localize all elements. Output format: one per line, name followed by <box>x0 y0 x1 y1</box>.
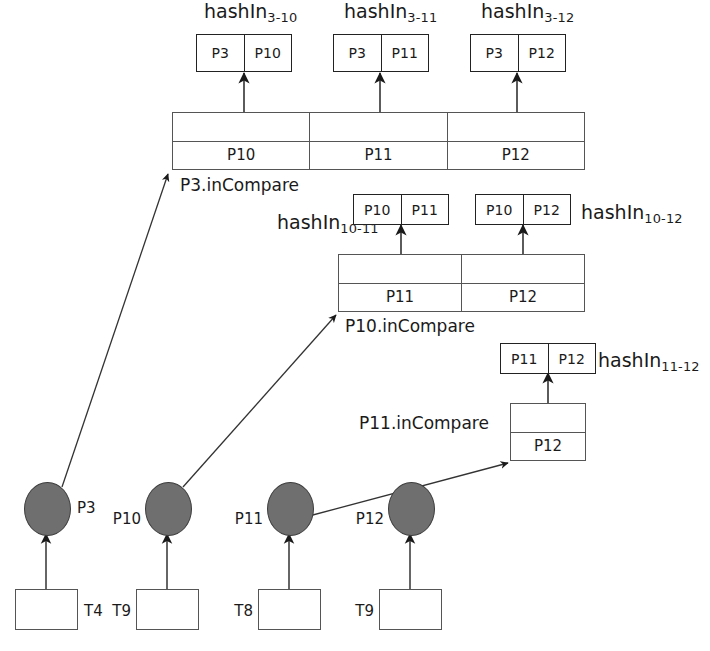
hashin-3-12-label-main: hashIn <box>481 0 544 22</box>
peer-label-p11: P11 <box>235 512 263 527</box>
p3-incompare-top-cell-0 <box>173 113 309 141</box>
transaction-box-t8[interactable] <box>258 589 321 630</box>
hashin-3-12-box[interactable]: P3 P12 <box>470 34 566 72</box>
hashin-3-11-label-main: hashIn <box>344 0 407 22</box>
hashin-3-10-cell-0: P3 <box>197 35 244 71</box>
transaction-label-t4: T4 <box>84 604 103 619</box>
p3-incompare-label: P3.inCompare <box>180 177 299 194</box>
hashin-10-12-cell-1: P12 <box>523 195 571 224</box>
p3-incompare-row-bottom: P10 P11 P12 <box>173 141 584 170</box>
hashin-3-10-cell-1: P10 <box>244 35 292 71</box>
hashin-3-12-label: hashIn3-12 <box>481 2 574 25</box>
transaction-box-t9b[interactable] <box>379 589 442 630</box>
hashin-3-11-cell-0: P3 <box>334 35 381 71</box>
p11-incompare-row-top <box>511 404 585 432</box>
hashin-10-11-cell-0: P10 <box>354 195 401 224</box>
arrow-p10-to-p10table <box>183 315 336 487</box>
peer-label-p10: P10 <box>113 512 141 527</box>
hashin-3-10-label-sub: 3-10 <box>267 10 297 25</box>
hashin-3-10-box[interactable]: P3 P10 <box>196 34 292 72</box>
hashin-10-12-label-sub: 10-12 <box>644 211 683 226</box>
peer-node-p11[interactable] <box>267 482 314 536</box>
peer-label-p12: P12 <box>356 512 384 527</box>
hashin-10-11-box[interactable]: P10 P11 <box>353 194 449 225</box>
peer-node-p3[interactable] <box>24 482 71 536</box>
p3-incompare-top-cell-2 <box>447 113 584 141</box>
transaction-label-t9b: T9 <box>355 604 374 619</box>
hashin-11-12-label: hashIn11-12 <box>598 351 700 374</box>
p3-incompare-bottom-cell-1: P11 <box>309 142 446 170</box>
transaction-label-t9a: T9 <box>112 604 131 619</box>
hashin-10-12-cell-0: P10 <box>476 195 523 224</box>
hashin-3-11-box[interactable]: P3 P11 <box>333 34 429 72</box>
hashin-3-11-label-sub: 3-11 <box>407 10 437 25</box>
p10-incompare-bottom-cell-0: P11 <box>339 284 461 312</box>
p10-incompare-row-bottom: P11 P12 <box>339 283 584 312</box>
hashin-11-12-cell-1: P12 <box>548 344 596 373</box>
p11-incompare-label: P11.inCompare <box>359 415 489 432</box>
p10-incompare-label: P10.inCompare <box>345 318 475 335</box>
p11-incompare-top-cell-0 <box>511 404 585 432</box>
hashin-11-12-label-main: hashIn <box>598 349 661 371</box>
p3-incompare-table[interactable]: P10 P11 P12 <box>172 112 585 170</box>
p11-incompare-table[interactable]: P12 <box>510 403 586 461</box>
hashin-3-12-cell-1: P12 <box>518 35 566 71</box>
hashin-3-12-cell-0: P3 <box>471 35 518 71</box>
hashin-11-12-label-sub: 11-12 <box>661 359 700 374</box>
arrow-p3-to-p3table <box>62 174 168 487</box>
p10-incompare-top-cell-1 <box>461 255 584 283</box>
diagram-canvas: hashIn3-10 hashIn3-11 hashIn3-12 P3 P10 … <box>0 0 710 651</box>
hashin-3-10-label: hashIn3-10 <box>204 2 297 25</box>
hashin-3-11-cell-1: P11 <box>381 35 429 71</box>
p11-incompare-row-bottom: P12 <box>511 432 585 461</box>
hashin-11-12-cell-0: P11 <box>501 344 548 373</box>
peer-node-p12[interactable] <box>388 482 435 536</box>
hashin-3-10-label-main: hashIn <box>204 0 267 22</box>
hashin-10-12-label: hashIn10-12 <box>581 203 683 226</box>
p3-incompare-bottom-cell-0: P10 <box>173 142 309 170</box>
p11-incompare-bottom-cell-0: P12 <box>511 433 585 461</box>
p10-incompare-row-top <box>339 255 584 283</box>
hashin-10-11-cell-1: P11 <box>401 195 449 224</box>
transaction-box-t4[interactable] <box>15 589 78 630</box>
p10-incompare-bottom-cell-1: P12 <box>461 284 584 312</box>
hashin-10-12-label-main: hashIn <box>581 201 644 223</box>
p3-incompare-row-top <box>173 113 584 141</box>
hashin-3-11-label: hashIn3-11 <box>344 2 437 25</box>
peer-node-p10[interactable] <box>145 482 192 536</box>
hashin-3-12-label-sub: 3-12 <box>544 10 574 25</box>
peer-label-p3: P3 <box>77 501 96 516</box>
hashin-10-12-box[interactable]: P10 P12 <box>475 194 571 225</box>
hashin-11-12-box[interactable]: P11 P12 <box>500 343 596 374</box>
p10-incompare-top-cell-0 <box>339 255 461 283</box>
transaction-box-t9a[interactable] <box>136 589 199 630</box>
p10-incompare-table[interactable]: P11 P12 <box>338 254 585 312</box>
p3-incompare-top-cell-1 <box>309 113 446 141</box>
hashin-10-11-label-main: hashIn <box>277 211 340 233</box>
transaction-label-t8: T8 <box>234 604 253 619</box>
p3-incompare-bottom-cell-2: P12 <box>447 142 584 170</box>
